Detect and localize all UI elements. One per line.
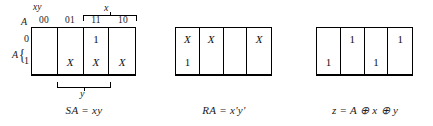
kmap-sa-grid: 1 X X X: [31, 27, 136, 76]
cell-r0-c1: 1: [341, 28, 365, 52]
cell-r1-c1: [341, 52, 365, 76]
cell-value: 1: [185, 57, 191, 68]
cell-r0-c0: [317, 28, 341, 52]
cell-r1-c0: [32, 52, 58, 76]
caption-z-text: z = A ⊕ x ⊕ y: [332, 104, 398, 116]
cell-value: 1: [373, 57, 379, 68]
column-header-01: 01: [57, 15, 83, 25]
caption-sa: SA = xy: [20, 104, 148, 116]
cell-value: X: [67, 57, 74, 68]
top-bracket-x: [83, 15, 137, 21]
cell-r1-c2: [224, 52, 248, 76]
cell-r1-c0: 1: [176, 52, 200, 76]
cell-value: 1: [326, 57, 332, 68]
kmap-z-grid: 1 1 1 1: [316, 27, 413, 76]
cell-r1-c2: 1: [365, 52, 389, 76]
cell-r0-c0: X: [176, 28, 200, 52]
cell-r0-c3: 1: [388, 28, 412, 52]
row-label-0: 0: [19, 33, 29, 44]
cell-r0-c3: X: [247, 28, 271, 52]
cell-r0-c1: X: [200, 28, 224, 52]
column-header-00: 00: [31, 15, 57, 25]
caption-ra-text: RA = x'y': [202, 104, 245, 116]
cell-r1-c3: [388, 52, 412, 76]
cell-r0-c0: [32, 28, 58, 52]
caption-sa-text: SA = xy: [66, 104, 103, 116]
caption-ra: RA = x'y': [163, 104, 285, 116]
row-group-brace-a: A{: [12, 49, 26, 61]
cell-value: 1: [93, 34, 99, 45]
cell-value: 1: [349, 34, 355, 45]
karnaugh-map-figure: xy A 00 01 11 10 x 0 1 A{ 1 X X X y: [0, 0, 433, 126]
caption-z: z = A ⊕ x ⊕ y: [303, 104, 427, 117]
top-bracket-label-x: x: [104, 2, 108, 13]
cell-r1-c2: X: [84, 52, 110, 76]
cell-r1-c0: 1: [317, 52, 341, 76]
cell-r1-c3: [247, 52, 271, 76]
cell-r1-c1: X: [58, 52, 84, 76]
cell-value: X: [208, 34, 215, 45]
brace-glyph: {: [19, 51, 25, 61]
cell-r0-c2: 1: [84, 28, 110, 52]
cell-r0-c1: [58, 28, 84, 52]
cell-r0-c2: [224, 28, 248, 52]
corner-label-a: A: [21, 16, 27, 27]
cell-r1-c1: [200, 52, 224, 76]
kmap-ra-grid: X X X 1: [175, 27, 272, 76]
cell-value: 1: [397, 34, 403, 45]
cell-r1-c3: X: [109, 52, 135, 76]
cell-value: X: [93, 57, 100, 68]
row-group-label-a: A: [12, 49, 18, 60]
top-bracket-tick: [110, 12, 111, 16]
column-group-label-xy: xy: [33, 2, 41, 12]
cell-r0-c3: [109, 28, 135, 52]
cell-value: X: [119, 57, 126, 68]
cell-r0-c2: [365, 28, 389, 52]
bottom-bracket-label-y: y: [80, 88, 84, 99]
cell-value: X: [256, 34, 263, 45]
cell-value: X: [184, 34, 191, 45]
